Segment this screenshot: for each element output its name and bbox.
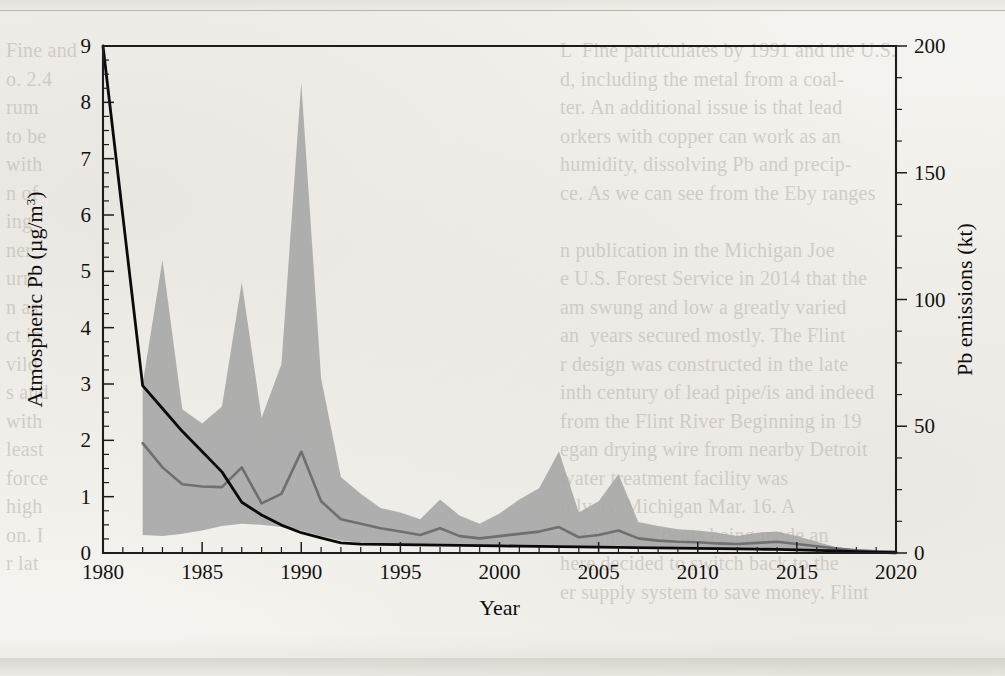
x-axis-tick-label: 2015 [776, 560, 818, 584]
x-axis-tick-label: 1985 [181, 560, 223, 584]
y-axis-tick-label: 6 [81, 203, 92, 227]
y2-axis-tick-label: 50 [914, 414, 935, 438]
y-axis-tick-label: 2 [81, 428, 92, 452]
x-axis-tick-label: 2000 [479, 560, 521, 584]
pb-atmospheric-emissions-chart: 1980198519901995200020052010201520200123… [0, 0, 1005, 676]
y2-axis-tick-label: 200 [914, 34, 946, 58]
x-axis-title: Year [479, 595, 520, 620]
pb-range-band-area [143, 83, 896, 552]
y-axis-tick-label: 7 [81, 147, 92, 171]
x-axis-tick-label: 1995 [379, 560, 421, 584]
y-axis-tick-label: 8 [81, 90, 92, 114]
x-axis-tick-label: 2020 [875, 560, 917, 584]
pb-range-band [143, 83, 896, 552]
y-axis-tick-label: 3 [81, 372, 92, 396]
y2-axis-tick-label: 100 [914, 288, 946, 312]
x-axis-tick-label: 2005 [578, 560, 620, 584]
x-axis-tick-label: 1990 [280, 560, 322, 584]
y-axis-tick-label: 9 [81, 34, 92, 58]
y-axis-title: Atmospheric Pb (µg/m3) [22, 192, 47, 408]
y-axis-tick-label: 1 [81, 485, 92, 509]
y2-axis-title: Pb emissions (kt) [952, 223, 977, 376]
y2-axis-tick-label: 0 [914, 541, 925, 565]
chart-figure: 1980198519901995200020052010201520200123… [0, 0, 1005, 676]
x-axis-tick-label: 2010 [677, 560, 719, 584]
y-axis-tick-label: 4 [81, 316, 92, 340]
y-axis-tick-label: 0 [81, 541, 92, 565]
y2-axis-tick-label: 150 [914, 161, 946, 185]
y-axis-tick-label: 5 [81, 259, 92, 283]
